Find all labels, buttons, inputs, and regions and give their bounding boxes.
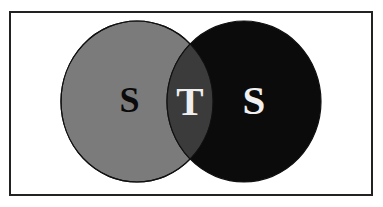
venn-diagram: S T S (0, 0, 383, 207)
venn-label-intersection: T (176, 78, 203, 124)
venn-label-left: S (119, 80, 139, 120)
venn-label-right: S (243, 77, 266, 123)
